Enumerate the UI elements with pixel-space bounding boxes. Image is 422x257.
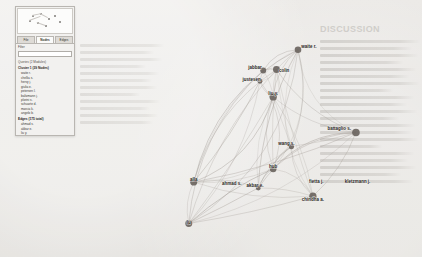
panel-tab-bar[interactable]: File Nodes Edges [16, 35, 74, 44]
tab-edges[interactable]: Edges [55, 36, 73, 43]
edge-layer [187, 50, 356, 224]
graph-edge [291, 50, 303, 147]
graph-node[interactable] [352, 129, 360, 137]
label-layer: waite r.jabbarcolinjustesenliu y.battagl… [187, 44, 371, 225]
graph-edge [189, 70, 277, 224]
graph-node-label: akbar e. [247, 183, 264, 188]
graph-node-label: fietta j. [309, 179, 323, 184]
graph-node-label: battaglio s. [327, 126, 351, 131]
graph-node-label: colin [279, 68, 290, 73]
tree-item[interactable]: angelo b. [18, 111, 72, 115]
graph-node-label: jabbar [247, 65, 262, 70]
graph-edge [189, 81, 260, 223]
graph-edge [272, 70, 276, 169]
graph-edge [194, 81, 260, 182]
graph-node-label: chindha a. [302, 197, 324, 202]
node-tree[interactable]: Queries (2 Modules) Cluster 1 (39 Nodes)… [16, 58, 74, 136]
graph-node-label: ahmad s. [222, 181, 241, 186]
graph-edge [194, 97, 273, 182]
graph-thumbnail-preview[interactable] [17, 8, 73, 34]
graph-edge [276, 70, 291, 147]
graph-edge [258, 188, 313, 196]
graph-node-label: justesen [242, 77, 261, 82]
tab-nodes[interactable]: Nodes [36, 36, 54, 43]
graph-node[interactable] [295, 46, 302, 53]
thumbnail-node [54, 15, 56, 17]
graph-node-label: hub [269, 164, 277, 169]
control-panel[interactable]: File Nodes Edges Filter Queries (2 Modul… [15, 6, 75, 136]
thumbnail-edge [40, 13, 48, 18]
graph-node-label: lu [187, 220, 191, 225]
graph-edge [291, 132, 356, 146]
graph-edge [273, 169, 313, 196]
network-graph-svg[interactable]: waite r.jabbarcolinjustesenliu y.battagl… [80, 10, 420, 250]
filter-input[interactable] [18, 51, 72, 58]
tab-file[interactable]: File [17, 36, 35, 43]
graph-edge [273, 97, 291, 147]
thumbnail-edge [37, 22, 46, 26]
graph-edge [189, 70, 263, 223]
filter-label: Filter [18, 45, 72, 49]
graph-edge [194, 132, 356, 182]
thumbnail-node [48, 18, 50, 20]
network-graph-canvas[interactable]: waite r.jabbarcolinjustesenliu y.battagl… [80, 10, 420, 250]
graph-edge [298, 50, 356, 133]
graph-node-label: waite r. [300, 44, 316, 49]
graph-node-label: kletzmann j. [345, 179, 371, 184]
graph-edge [291, 147, 313, 197]
tree-header: Queries (2 Modules) [18, 60, 72, 64]
graph-node-label: alla [190, 177, 198, 182]
thumbnail-edge [29, 16, 40, 21]
graph-node-label: wang s. [277, 141, 294, 146]
thumbnail-node [59, 21, 61, 23]
filter-row: Filter [16, 44, 74, 58]
graph-edge [189, 196, 313, 223]
graph-node-label: liu y. [268, 91, 278, 96]
